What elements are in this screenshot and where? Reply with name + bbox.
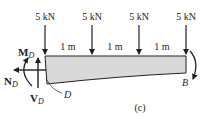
- point-d-label: D: [63, 89, 72, 100]
- moment-b-arrow: [190, 51, 196, 79]
- panel-label: (c): [134, 102, 145, 114]
- shear-force-label: VD: [30, 92, 44, 106]
- moment-arrow: [24, 58, 32, 86]
- moment-label: MD: [18, 46, 34, 60]
- point-load-2: 5 kN: [82, 11, 102, 54]
- point-load-4: 5 kN: [176, 11, 196, 54]
- point-load-3: 5 kN: [129, 11, 149, 54]
- spacing-label: 1 m: [60, 41, 76, 52]
- normal-force-label: ND: [4, 75, 18, 89]
- load-label: 5 kN: [129, 11, 149, 22]
- load-label: 5 kN: [176, 11, 196, 22]
- spacing-label: 1 m: [154, 41, 170, 52]
- load-label: 5 kN: [35, 11, 55, 22]
- point-load-1: 5 kN: [35, 11, 55, 54]
- fbd-diagram: 5 kN 5 kN 5 kN 5 kN 1 m 1 m 1 m MD ND VD…: [0, 0, 201, 119]
- load-label: 5 kN: [82, 11, 102, 22]
- beam-body: [45, 56, 186, 84]
- point-b-label: B: [182, 77, 188, 88]
- spacing-label: 1 m: [107, 41, 123, 52]
